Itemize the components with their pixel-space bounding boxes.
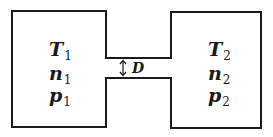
- channel-diameter-label: D: [131, 60, 145, 76]
- double-headed-arrow-icon: [120, 61, 126, 76]
- left-chamber-labels: T1 n1 p1: [49, 38, 72, 109]
- left-temperature-label: T1: [49, 38, 72, 63]
- left-pressure-label: p1: [49, 84, 71, 109]
- chamber-diagram: T1 n1 p1 T2 n2 p2 D: [0, 0, 273, 137]
- right-temperature-label: T2: [208, 38, 231, 63]
- right-chamber-labels: T2 n2 p2: [208, 38, 231, 109]
- right-pressure-label: p2: [208, 84, 230, 109]
